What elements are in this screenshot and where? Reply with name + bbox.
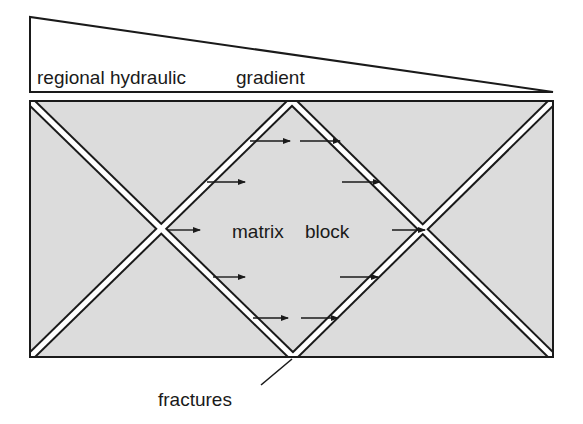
block-rectangle (30, 101, 553, 357)
gradient-label-left: regional hydraulic (37, 67, 186, 88)
fractures-callout: fractures (158, 359, 292, 410)
gradient-label-right: gradient (236, 67, 305, 88)
hydraulic-gradient-wedge: regional hydraulic gradient (30, 17, 553, 92)
block-label: block (305, 221, 350, 242)
fractures-label: fractures (158, 389, 232, 410)
matrix-block: matrix block (30, 101, 553, 357)
fracture-flow-diagram: regional hydraulic gradient (0, 0, 583, 424)
fractures-leader-line (261, 359, 292, 385)
matrix-label: matrix (232, 221, 284, 242)
